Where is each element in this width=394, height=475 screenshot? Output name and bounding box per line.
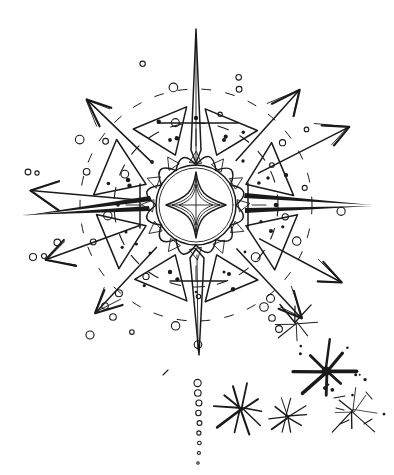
wedge-dot	[127, 184, 131, 188]
ink-dot	[195, 291, 198, 294]
wedge-dot	[121, 246, 124, 249]
ink-dot	[126, 178, 131, 183]
sparkle-speck	[383, 413, 386, 416]
wedge-dot	[175, 136, 179, 140]
ink-dot	[168, 270, 172, 274]
artwork-canvas	[0, 0, 394, 475]
ink-dot	[244, 251, 247, 254]
sparkle-speck	[330, 388, 334, 392]
ink-dot	[266, 176, 269, 179]
ink-dot	[269, 229, 273, 233]
sparkle-core	[322, 367, 331, 376]
ink-dot	[222, 138, 226, 142]
ink-dot	[241, 159, 244, 162]
wedge-dot	[242, 131, 245, 134]
sparkle-speck	[327, 383, 329, 385]
starburst-mandala-drawing	[0, 0, 394, 475]
wedge-dot	[257, 181, 261, 185]
sparkle-speck	[354, 373, 357, 376]
wedge-dot	[231, 287, 235, 291]
ink-dot	[149, 252, 152, 255]
ink-dot	[150, 160, 154, 164]
sparkle-speck	[300, 345, 303, 348]
sparkle-speck	[323, 386, 327, 390]
ink-dot	[274, 203, 279, 208]
sparkle-speck	[346, 347, 349, 350]
wedge-dot	[227, 272, 231, 276]
wedge-dot	[107, 182, 111, 186]
sparkle-speck	[351, 394, 354, 397]
wedge-dot	[143, 284, 146, 287]
ink-dot	[116, 203, 120, 207]
wedge-dot	[135, 242, 138, 245]
ink-dot	[223, 271, 226, 274]
sparkle-speck	[299, 352, 302, 355]
wedge-dot	[259, 220, 262, 223]
sparkle-speck	[363, 378, 366, 381]
wedge-dot	[281, 225, 284, 228]
sparkle-speck	[359, 374, 361, 376]
ink-dot	[168, 138, 172, 142]
ink-dot	[194, 116, 198, 120]
ink-dot	[125, 231, 128, 234]
wedge-dot	[284, 173, 288, 177]
